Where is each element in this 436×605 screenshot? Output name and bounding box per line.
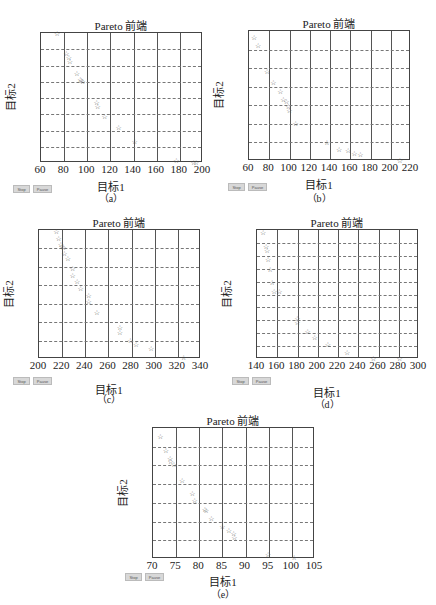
data-point-star-icon: ☆ [255,42,261,49]
gridline-y [257,282,417,283]
x-tick-label: 200 [194,163,211,175]
x-tick-label: 280 [122,359,139,371]
x-tick-label: 200 [309,359,326,371]
subfigure-caption: （a） [99,190,123,205]
x-tick-label: 75 [170,559,181,571]
gridline-x [298,230,299,357]
gridline-x [87,33,88,161]
x-tick-label: 300 [410,359,427,371]
data-point-star-icon: ☆ [80,78,86,85]
pause-button[interactable]: Pause [33,377,52,385]
plot-area: ☆☆☆☆☆☆☆☆☆☆☆☆☆☆☆☆☆☆☆☆ [38,229,200,358]
pause-button[interactable]: Pause [252,377,271,385]
data-point-star-icon: ☆ [208,515,214,522]
x-tick-label: 120 [101,163,118,175]
pause-button[interactable]: Pause [145,573,164,581]
data-point-star-icon: ☆ [270,80,276,87]
data-point-star-icon: ☆ [324,140,330,147]
data-point-star-icon: ☆ [264,68,270,75]
x-tick-label: 180 [171,163,188,175]
gridline-y [39,304,199,305]
data-point-star-icon: ☆ [357,152,363,159]
gridline-y [153,465,313,466]
stop-button[interactable]: Stop [125,573,142,581]
stop-button[interactable]: Stop [228,183,245,191]
stop-button[interactable]: Stop [13,185,30,193]
x-tick-label: 95 [262,559,273,571]
gridline-y [41,66,201,67]
chart-title: Pareto 前端 [207,412,260,428]
x-tick-label: 280 [390,359,407,371]
stop-button[interactable]: Stop [232,377,249,385]
subfigure-caption: （b） [307,190,332,205]
x-tick-label: 80 [193,559,204,571]
x-tick-label: 180 [288,359,305,371]
data-point-star-icon: ☆ [286,107,292,114]
data-point-star-icon: ☆ [54,30,60,37]
data-point-star-icon: ☆ [269,279,275,286]
data-point-star-icon: ☆ [264,247,270,254]
plot-area: ☆☆☆☆☆☆☆☆☆☆☆☆☆☆☆☆ [248,30,410,160]
data-point-star-icon: ☆ [292,120,298,127]
data-point-star-icon: ☆ [133,341,139,348]
data-point-star-icon: ☆ [78,285,84,292]
x-tick-label: 320 [169,359,186,371]
x-tick-label: 340 [192,359,209,371]
x-tick-label: 70 [147,559,158,571]
data-point-star-icon: ☆ [344,349,350,356]
chart-title: Pareto 前端 [311,214,364,230]
gridline-y [41,114,201,115]
x-tick-label: 120 [301,161,318,173]
gridline-x [399,230,400,357]
y-axis-label: 目标2 [210,81,226,109]
gridline-y [39,267,199,268]
gridline-y [257,346,417,347]
y-axis-label: 目标2 [218,280,234,308]
data-point-star-icon: ☆ [267,266,273,273]
gridline-x [379,230,380,357]
data-point-star-icon: ☆ [115,125,121,132]
gridline-x [358,230,359,357]
data-point-star-icon: ☆ [94,309,100,316]
data-point-star-icon: ☆ [219,524,225,531]
x-tick-label: 140 [124,163,141,175]
x-tick-label: 100 [283,559,300,571]
x-tick-label: 180 [361,161,378,173]
pause-button[interactable]: Pause [248,183,267,191]
chart-title: Pareto 前端 [95,17,148,33]
data-point-star-icon: ☆ [325,341,331,348]
x-tick-label: 90 [239,559,250,571]
data-point-star-icon: ☆ [86,298,92,305]
gridline-x [157,33,158,161]
gridline-y [39,285,199,286]
gridline-y [41,98,201,99]
gridline-x [110,33,111,161]
data-point-star-icon: ☆ [265,256,271,263]
x-tick-label: 200 [382,161,399,173]
data-point-star-icon: ☆ [260,229,266,236]
data-point-star-icon: ☆ [148,346,154,353]
data-point-star-icon: ☆ [276,288,282,295]
gridline-y [41,82,201,83]
gridline-y [153,522,313,523]
gridline-y [257,269,417,270]
gridline-y [249,50,409,51]
pause-button[interactable]: Pause [33,185,52,193]
x-tick-label: 200 [30,359,47,371]
plot-area: ☆☆☆☆☆☆☆☆☆☆☆☆☆☆☆☆ [40,32,202,162]
data-point-star-icon: ☆ [251,34,257,41]
data-point-star-icon: ☆ [132,138,138,145]
gridline-y [153,484,313,485]
data-point-star-icon: ☆ [294,319,300,326]
x-tick-label: 105 [306,559,323,571]
gridline-y [257,320,417,321]
subfigure-caption: （d） [315,396,340,411]
data-point-star-icon: ☆ [231,535,237,542]
data-point-star-icon: ☆ [102,113,108,120]
gridline-y [249,68,409,69]
subfigure-caption: （e） [211,586,235,601]
data-point-star-icon: ☆ [171,462,177,469]
stop-button[interactable]: Stop [13,377,30,385]
data-point-star-icon: ☆ [179,478,185,485]
x-tick-label: 160 [341,161,358,173]
